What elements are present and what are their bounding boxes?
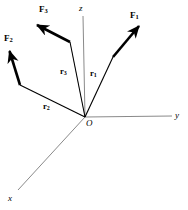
x-axis-line bbox=[18, 117, 85, 190]
F3-label-subscript: 3 bbox=[45, 7, 48, 14]
z-axis-line bbox=[83, 16, 85, 117]
r2-label: r2 bbox=[43, 102, 50, 111]
diagram-canvas bbox=[0, 0, 188, 210]
F3-label: F3 bbox=[39, 5, 48, 15]
r1-label-subscript: 1 bbox=[94, 72, 97, 78]
r3-label-subscript: 3 bbox=[64, 70, 67, 76]
F2-vector bbox=[10, 51, 21, 85]
F2-label: F2 bbox=[4, 34, 13, 44]
axes-group bbox=[18, 16, 172, 190]
r1-vector bbox=[85, 57, 113, 117]
F1-vector bbox=[113, 26, 139, 57]
F3-vector bbox=[37, 25, 70, 42]
F1-label-subscript: 1 bbox=[136, 13, 139, 20]
r3-label: r3 bbox=[60, 67, 67, 76]
r3-vector bbox=[70, 42, 85, 117]
origin-label: O bbox=[86, 119, 93, 128]
r2-vector bbox=[20, 85, 85, 117]
vector-diagram: z y x O r1 r2 r3 F1 F2 F3 bbox=[0, 0, 188, 210]
force-vectors-group bbox=[10, 25, 140, 85]
r1-label: r1 bbox=[90, 69, 97, 78]
x-axis-label: x bbox=[8, 194, 12, 203]
F2-label-subscript: 2 bbox=[10, 36, 13, 43]
position-vectors-group bbox=[20, 42, 113, 117]
y-axis-line bbox=[85, 116, 172, 117]
F1-label: F1 bbox=[130, 11, 139, 21]
z-axis-label: z bbox=[79, 4, 83, 13]
r2-label-subscript: 2 bbox=[47, 105, 50, 111]
y-axis-label: y bbox=[175, 111, 179, 120]
